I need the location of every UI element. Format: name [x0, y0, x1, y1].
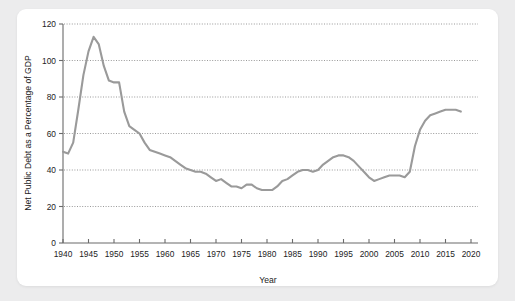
y-axis-ticks-group: 020406080100120 [42, 19, 63, 248]
x-tick-label: 1955 [130, 249, 149, 259]
x-tick-label: 2000 [360, 249, 379, 259]
x-tick-label: 2015 [436, 249, 455, 259]
x-tick-label: 1960 [156, 249, 175, 259]
x-tick-label: 1945 [79, 249, 98, 259]
y-tick-label: 60 [47, 129, 57, 139]
x-tick-label: 2020 [462, 249, 481, 259]
chart-figure: 020406080100120 194019451950195519601965… [0, 0, 515, 301]
y-tick-label: 100 [42, 56, 56, 66]
x-tick-label: 1965 [181, 249, 200, 259]
x-axis-title: Year [259, 275, 277, 285]
x-tick-label: 1990 [309, 249, 328, 259]
x-tick-label: 1975 [232, 249, 251, 259]
y-tick-label: 40 [47, 165, 57, 175]
x-axis-ticks-group: 1940194519501955196019651970197519801985… [54, 239, 481, 259]
x-tick-label: 1980 [258, 249, 277, 259]
y-tick-label: 20 [47, 202, 57, 212]
x-tick-label: 1950 [105, 249, 124, 259]
x-tick-label: 1940 [54, 249, 73, 259]
data-line-net-public-debt [63, 37, 461, 190]
y-tick-label: 0 [51, 238, 56, 248]
y-tick-label: 120 [42, 19, 56, 29]
x-tick-label: 1970 [207, 249, 226, 259]
x-tick-label: 2005 [385, 249, 404, 259]
y-tick-label: 80 [47, 92, 57, 102]
x-tick-label: 2010 [411, 249, 430, 259]
x-tick-label: 1995 [334, 249, 353, 259]
line-chart-svg: 020406080100120 194019451950195519601965… [0, 0, 515, 301]
y-axis-title: Net Public Debt as a Percentage of GDP [23, 55, 33, 211]
x-tick-label: 1985 [283, 249, 302, 259]
